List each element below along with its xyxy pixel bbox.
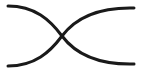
curve-bottom-left-to-top-right [8, 8, 134, 66]
crossing-curves-icon: crossing-curves [0, 0, 141, 72]
curve-top-left-to-bottom-right [8, 6, 134, 64]
crossing-curves-svg [0, 0, 141, 72]
